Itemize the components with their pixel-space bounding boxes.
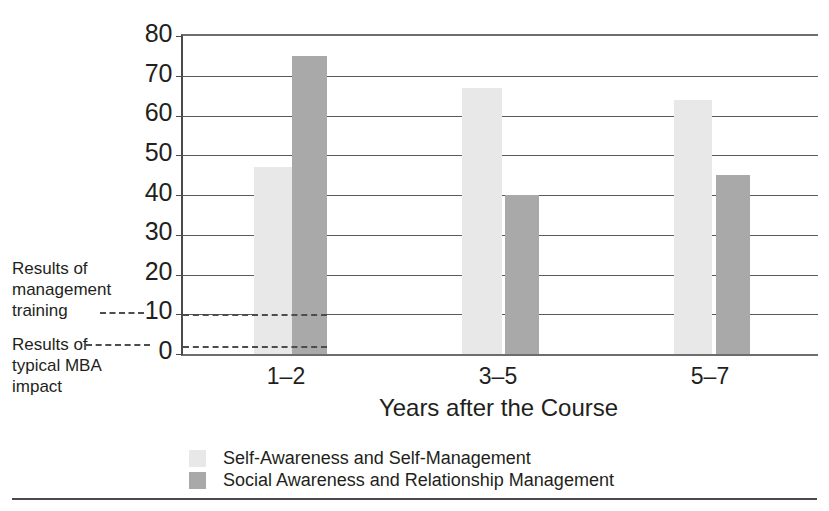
bar-series-a-group-2[interactable] [462, 88, 502, 354]
y-tick-mark-50 [176, 155, 183, 156]
gridline-70 [183, 76, 818, 77]
y-tick-mark-40 [176, 195, 183, 196]
bottom-divider [12, 498, 817, 500]
x-tick-label-group-2: 3–5 [428, 363, 568, 389]
x-tick-label-group-3: 5–7 [640, 363, 780, 389]
annotation-label-typical-mba-impact-line-1: Results of [12, 334, 132, 355]
y-tick-label-60: 60 [112, 100, 172, 125]
y-tick-label-30: 30 [112, 219, 172, 244]
y-tick-label-70: 70 [112, 61, 172, 86]
y-tick-label-80: 80 [112, 21, 172, 46]
x-axis-title: Years after the Course [181, 394, 816, 422]
x-tick-label-group-1: 1–2 [216, 363, 356, 389]
chart-legend: Self-Awareness and Self-Management Socia… [189, 447, 614, 491]
annotation-label-typical-mba-impact: Results of typical MBA impact [12, 334, 132, 397]
annotation-label-typical-mba-impact-line-3: impact [12, 376, 132, 397]
annotation-line-management-training-inner [183, 314, 327, 316]
legend-item-social-awareness[interactable]: Social Awareness and Relationship Manage… [189, 469, 614, 491]
y-tick-mark-80 [176, 36, 183, 37]
legend-item-self-awareness[interactable]: Self-Awareness and Self-Management [189, 447, 614, 469]
y-tick-mark-60 [176, 116, 183, 117]
plot-area [181, 34, 818, 356]
y-tick-label-50: 50 [112, 140, 172, 165]
annotation-label-typical-mba-impact-line-2: typical MBA [12, 355, 132, 376]
bar-series-b-group-1[interactable] [292, 56, 327, 354]
legend-swatch-icon-series-a [189, 450, 206, 467]
bar-series-b-group-3[interactable] [716, 175, 750, 354]
annotation-label-management-training-line-1: Results of [12, 258, 132, 279]
bar-series-a-group-1[interactable] [254, 167, 292, 354]
annotation-label-management-training-line-3: training [12, 300, 132, 321]
annotation-label-management-training: Results of management training [12, 258, 132, 321]
annotation-line-typical-mba-impact-inner [183, 346, 327, 348]
legend-label-series-a: Self-Awareness and Self-Management [223, 448, 531, 469]
legend-label-series-b: Social Awareness and Relationship Manage… [223, 470, 614, 491]
y-tick-mark-0 [176, 354, 183, 355]
y-tick-mark-10 [176, 314, 183, 315]
legend-swatch-icon-series-b [189, 472, 206, 489]
annotation-label-management-training-line-2: management [12, 279, 132, 300]
bar-series-b-group-2[interactable] [505, 195, 539, 354]
y-tick-mark-20 [176, 275, 183, 276]
bar-series-a-group-3[interactable] [674, 100, 712, 354]
y-tick-mark-70 [176, 76, 183, 77]
bar-chart-figure: 80 70 60 50 40 30 20 10 0 [0, 0, 829, 511]
y-tick-label-40: 40 [112, 180, 172, 205]
y-tick-mark-30 [176, 235, 183, 236]
